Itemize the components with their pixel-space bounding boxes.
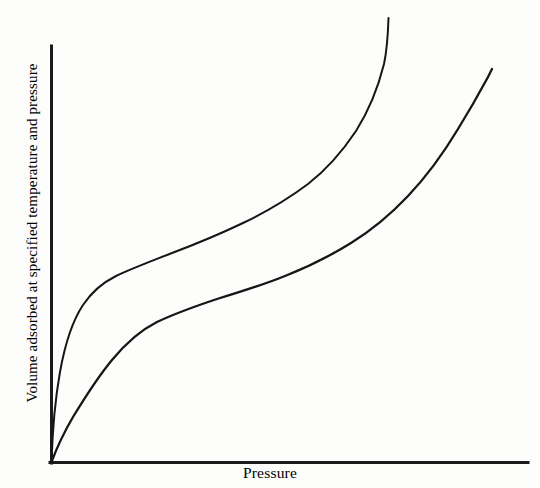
y-axis-label-wrap: Volume adsorbed at specified temperature… bbox=[23, 0, 45, 468]
x-axis-label: Pressure bbox=[243, 464, 297, 481]
chart-canvas bbox=[0, 0, 540, 488]
x-axis-label-wrap: Pressure bbox=[0, 464, 540, 482]
y-axis-label: Volume adsorbed at specified temperature… bbox=[24, 63, 40, 402]
curve-lower-isotherm bbox=[52, 69, 493, 462]
axes-group bbox=[50, 46, 528, 463]
curve-upper-isotherm bbox=[52, 18, 389, 462]
adsorption-isotherm-figure: Pressure Volume adsorbed at specified te… bbox=[0, 0, 540, 488]
